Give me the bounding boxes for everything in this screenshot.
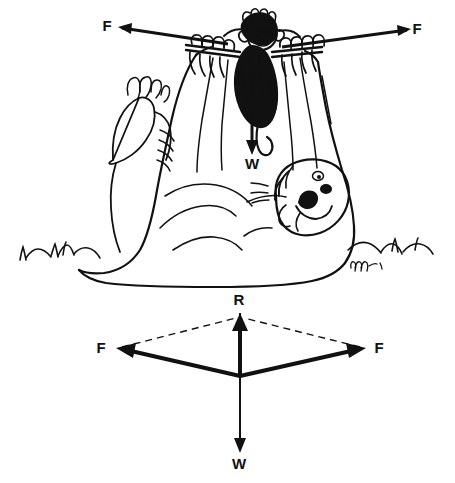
cartoon-force-left-label: F [102,17,111,34]
cartoon-force-right-label: F [412,20,421,37]
vector-weight-label: W [232,455,247,472]
figure-root: F F W [0,0,455,483]
cartoon-weight-label: W [245,155,260,172]
vector-force-right-label: F [374,339,383,356]
vector-resultant-label: R [234,291,245,308]
physics-cartoon-figure: F F W [0,0,455,483]
gorilla-eye-left [320,184,332,194]
vector-force-left-label: F [96,339,105,356]
